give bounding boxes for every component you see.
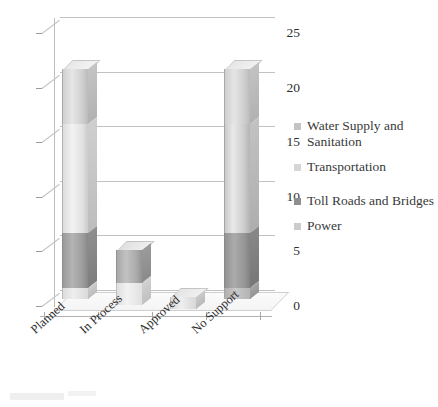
axis-depth-connector bbox=[42, 238, 60, 252]
bar-segment-water-supply-and-sanitation[interactable] bbox=[62, 69, 88, 124]
axis-depth-connector bbox=[42, 20, 60, 34]
bar-side bbox=[88, 62, 97, 124]
scan-artifact bbox=[10, 393, 64, 400]
axis-depth-connector bbox=[42, 75, 60, 89]
bar-face bbox=[116, 250, 143, 283]
y-axis-tick-label-20: 20 bbox=[274, 81, 300, 95]
legend-item-water-supply-and-sanitation[interactable]: Water Supply and Sanitation bbox=[294, 118, 436, 150]
legend-swatch-icon bbox=[294, 198, 301, 205]
legend-swatch-icon bbox=[294, 123, 301, 130]
bar-side bbox=[250, 62, 259, 124]
scan-artifact bbox=[68, 391, 96, 396]
bar-side bbox=[88, 226, 97, 288]
bar-face bbox=[224, 233, 251, 288]
legend-label: Power bbox=[307, 218, 342, 234]
bar-face bbox=[62, 288, 89, 299]
bar-face bbox=[224, 124, 251, 233]
legend-swatch-icon bbox=[294, 223, 301, 230]
bar-side bbox=[250, 117, 259, 233]
bar-segment-power[interactable] bbox=[62, 288, 88, 299]
y-axis-tick-label-5: 5 bbox=[274, 244, 300, 258]
bar-segment-transportation[interactable] bbox=[224, 124, 250, 233]
plot-area: 25 20 15 10 5 0 bbox=[0, 0, 300, 330]
legend-item-toll-roads-and-bridges[interactable]: Toll Roads and Bridges bbox=[294, 193, 436, 209]
y-axis-tick-label-25: 25 bbox=[274, 26, 300, 40]
chart-legend: Water Supply and Sanitation Transportati… bbox=[294, 118, 436, 243]
bar-face bbox=[62, 233, 89, 288]
legend-swatch-icon bbox=[294, 164, 301, 171]
legend-label: Water Supply and Sanitation bbox=[307, 118, 436, 150]
y-axis-line bbox=[54, 18, 55, 307]
bar-segment-toll-roads-and-bridges[interactable] bbox=[62, 233, 88, 288]
bar-face bbox=[62, 69, 89, 124]
bar-side bbox=[88, 117, 97, 233]
bar-face bbox=[224, 69, 251, 124]
x-axis-tick-mark bbox=[260, 312, 261, 320]
bar-segment-toll-roads-and-bridges[interactable] bbox=[224, 233, 250, 288]
bar-side bbox=[250, 226, 259, 288]
bar-face bbox=[62, 124, 89, 233]
gridline-25 bbox=[60, 17, 275, 18]
axis-depth-connector bbox=[42, 129, 60, 143]
legend-item-transportation[interactable]: Transportation bbox=[294, 159, 436, 175]
chart-canvas: 25 20 15 10 5 0 bbox=[0, 0, 438, 407]
bar-segment-transportation[interactable] bbox=[62, 124, 88, 233]
legend-label: Transportation bbox=[307, 159, 386, 175]
x-axis-label-planned: Planned bbox=[28, 299, 68, 337]
legend-label: Toll Roads and Bridges bbox=[307, 193, 434, 209]
bar-segment-water-supply-and-sanitation[interactable] bbox=[224, 69, 250, 124]
legend-item-power[interactable]: Power bbox=[294, 218, 436, 234]
axis-depth-connector bbox=[42, 184, 60, 198]
bar-segment-toll-roads-and-bridges[interactable] bbox=[116, 250, 142, 283]
